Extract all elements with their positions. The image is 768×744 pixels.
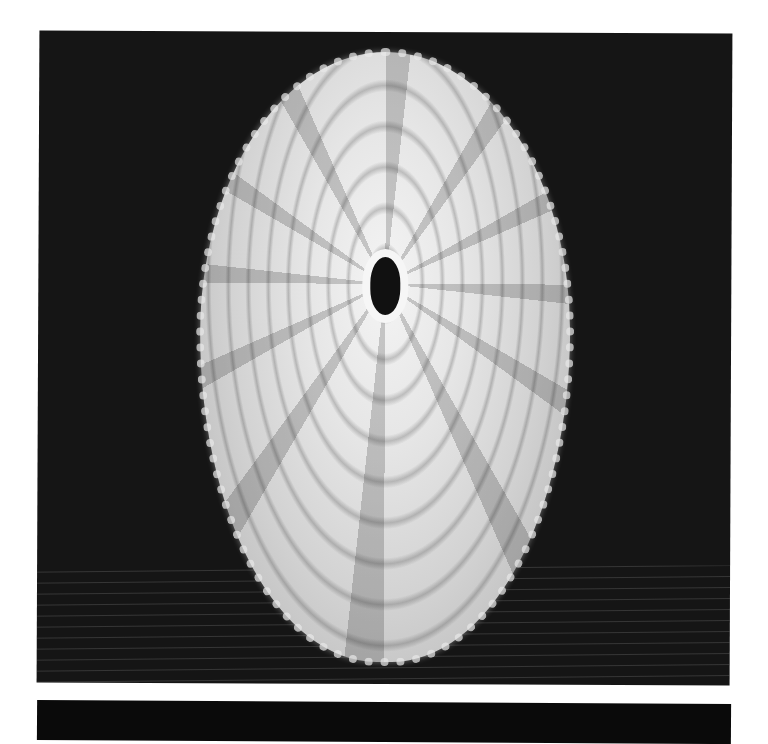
limpet-shell <box>199 51 572 663</box>
photo-panel <box>37 30 733 685</box>
apical-orifice <box>370 257 400 315</box>
second-photo-panel <box>37 700 731 744</box>
